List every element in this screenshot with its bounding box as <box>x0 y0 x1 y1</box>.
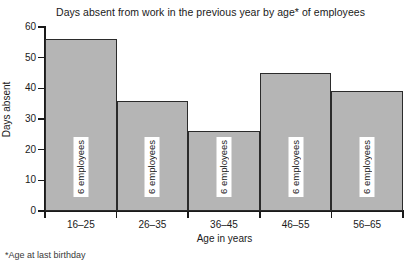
y-tick-label: 60 <box>0 22 36 32</box>
x-tick-label: 16–25 <box>46 219 116 230</box>
y-tick <box>38 88 45 90</box>
bar-annotation: 6 employees <box>360 137 375 197</box>
plot-area: 6 employees6 employees6 employees6 emplo… <box>45 27 403 211</box>
bar-annotation-label: 6 employees <box>218 140 228 194</box>
x-tick-label: 26–35 <box>117 219 187 230</box>
y-tick <box>38 180 45 182</box>
bar-annotation: 6 employees <box>216 137 231 197</box>
y-axis-title: Days absent <box>1 67 12 153</box>
bar-annotation-label: 6 employees <box>290 140 300 194</box>
bar: 6 employees <box>188 131 260 211</box>
x-tick-label: 46–55 <box>261 219 331 230</box>
y-tick-label: 0 <box>0 206 36 216</box>
bar-chart: Days absent from work in the previous ye… <box>0 0 412 260</box>
bar-annotation: 6 employees <box>145 137 160 197</box>
bar-annotation-label: 6 employees <box>75 140 85 194</box>
bar-annotation-label: 6 employees <box>147 140 157 194</box>
y-tick <box>38 149 45 151</box>
y-tick-label: 20 <box>0 145 36 155</box>
y-tick-label: 30 <box>0 114 36 124</box>
x-tick-label: 56–65 <box>332 219 402 230</box>
y-tick-label: 40 <box>0 83 36 93</box>
x-tick-label: 36–45 <box>189 219 259 230</box>
x-tick <box>402 211 404 218</box>
y-tick <box>38 26 45 28</box>
y-tick <box>38 118 45 120</box>
chart-title: Days absent from work in the previous ye… <box>56 6 404 18</box>
bar-annotation: 6 employees <box>288 137 303 197</box>
bar-annotation-label: 6 employees <box>362 140 372 194</box>
bar: 6 employees <box>117 101 189 211</box>
x-tick <box>331 211 333 218</box>
y-tick-label: 10 <box>0 175 36 185</box>
bar: 6 employees <box>260 73 332 211</box>
y-tick <box>38 57 45 59</box>
chart-footnote: *Age at last birthday <box>5 250 86 260</box>
x-tick <box>187 211 189 218</box>
x-axis-title: Age in years <box>45 233 404 244</box>
bar: 6 employees <box>45 39 117 211</box>
bar: 6 employees <box>331 91 403 211</box>
x-tick <box>116 211 118 218</box>
bar-annotation: 6 employees <box>73 137 88 197</box>
x-tick <box>259 211 261 218</box>
x-tick <box>44 211 46 218</box>
y-tick-label: 50 <box>0 53 36 63</box>
